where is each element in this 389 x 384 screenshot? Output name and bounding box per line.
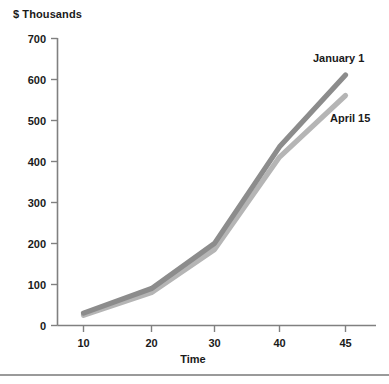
y-tick-label-200: 200 [28,238,46,250]
y-tick-label-700: 700 [28,33,46,45]
series-line-january-1 [84,75,346,313]
bottom-divider [0,374,389,376]
y-tick-label-300: 300 [28,197,46,209]
x-tick-label-40: 40 [273,337,285,349]
series-line-april-15 [84,96,346,316]
y-tick-label-0: 0 [40,320,46,332]
series-label-january-1: January 1 [313,52,364,64]
y-tick-label-500: 500 [28,115,46,127]
chart-plot-area: 700 600 500 400 300 200 100 0 10 20 30 4… [0,0,389,384]
series-label-april-15: April 15 [330,112,370,124]
line-chart: $ Thousands 700 600 500 400 300 200 100 … [0,0,389,384]
y-tick-label-400: 400 [28,156,46,168]
x-tick-label-20: 20 [145,337,157,349]
x-axis-title: Time [180,353,205,365]
y-tick-marks [51,39,58,326]
x-tick-label-45: 45 [339,337,351,349]
y-tick-label-100: 100 [28,279,46,291]
y-tick-label-600: 600 [28,74,46,86]
x-tick-marks [84,326,346,333]
x-tick-label-30: 30 [208,337,220,349]
x-tick-label-10: 10 [77,337,89,349]
